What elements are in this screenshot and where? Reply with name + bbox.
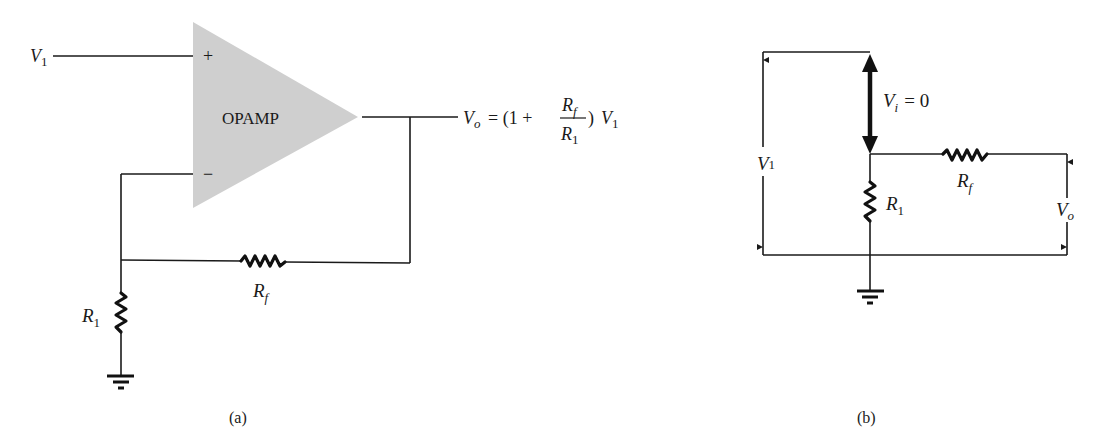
svg-text:R1: R1 [560,124,579,147]
rf-label-b: Rf [956,170,975,195]
caption-a: (a) [229,409,247,427]
ground-icon-b [857,291,884,303]
r1-resistor [116,293,126,332]
vi-label: Vi= 0 [883,90,929,115]
caption-b: (b) [857,409,876,427]
svg-text:Rf: Rf [561,95,579,119]
svg-text:Vo: Vo [463,108,481,131]
feedback-wire-mid [285,262,410,263]
output-equation: Vo = (1 + Rf R1 ) V1 [463,95,619,147]
rf-resistor-b [943,150,987,160]
r1-label: R1 [81,305,100,330]
opamp-label: OPAMP [222,109,279,128]
plus-sign: + [203,46,213,66]
ground-icon-a [107,376,134,388]
r1-resistor-b [865,182,875,221]
r1-label-b: R1 [885,193,904,218]
svg-text:= (1 +: = (1 + [488,108,532,129]
vo-label: Vo [1056,199,1075,223]
rf-label: Rf [252,280,271,305]
svg-text:V1: V1 [601,108,619,131]
feedback-wire-left [121,260,241,261]
vi-arrow [862,54,878,154]
v1-input-label: V1 [30,46,48,69]
figure-a: OPAMP + − V1 Vo = (1 + Rf R1 ) V1 Rf [30,22,619,427]
rf-resistor [241,256,285,266]
figure-b: V1 Vi= 0 Rf Vo R1 (b) [757,52,1075,427]
minus-sign: − [203,164,213,184]
circuit-diagram: OPAMP + − V1 Vo = (1 + Rf R1 ) V1 Rf [0,0,1106,445]
v1-label: V1 [757,153,775,174]
svg-text:): ) [588,108,594,129]
